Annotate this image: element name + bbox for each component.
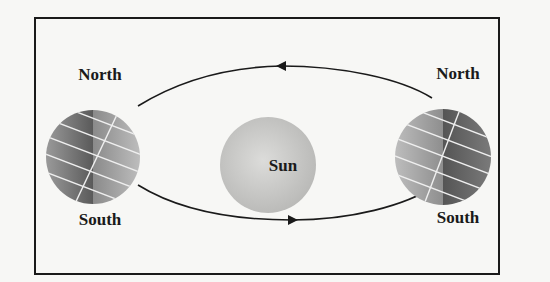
earth-left-north-label: North xyxy=(78,65,122,84)
orbit-arrow-left-icon xyxy=(276,61,286,71)
earth-right-south-label: South xyxy=(437,208,480,227)
orbit-top-arc xyxy=(138,66,432,106)
earth-left: North South xyxy=(40,65,150,230)
earth-sun-orbit-diagram: Sun North South xyxy=(0,0,550,282)
sun: Sun xyxy=(220,117,316,213)
earth-left-south-label: South xyxy=(79,210,122,229)
earth-right-north-label: North xyxy=(436,64,480,83)
sun-label: Sun xyxy=(269,156,298,175)
earth-right: North South xyxy=(390,64,500,232)
orbit-arrow-right-icon xyxy=(288,215,298,225)
